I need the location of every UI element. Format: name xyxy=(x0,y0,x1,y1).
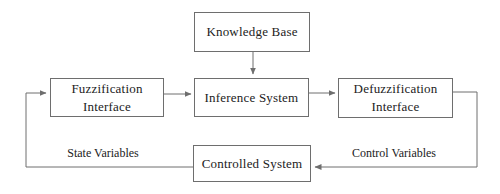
inference-system-label: Inference System xyxy=(205,89,299,107)
defuzzification-label-line1: Defuzzification xyxy=(354,80,438,98)
control-variables-label: Control Variables xyxy=(339,146,449,160)
fuzzification-interface-box: Fuzzification Interface xyxy=(50,78,164,117)
fuzzy-control-block-diagram: Knowledge Base Fuzzification Interface I… xyxy=(0,0,500,194)
state-variables-label: State Variables xyxy=(48,146,158,160)
inference-system-box: Inference System xyxy=(194,78,309,117)
controlled-system-box: Controlled System xyxy=(193,145,311,182)
fuzzification-label-line1: Fuzzification xyxy=(71,80,142,98)
fuzzification-label-line2: Interface xyxy=(83,98,131,116)
defuzzification-interface-box: Defuzzification Interface xyxy=(338,78,453,118)
knowledge-base-label: Knowledge Base xyxy=(206,23,297,41)
defuzzification-label-line2: Interface xyxy=(372,98,420,116)
controlled-system-label: Controlled System xyxy=(202,155,303,173)
knowledge-base-box: Knowledge Base xyxy=(194,12,310,52)
